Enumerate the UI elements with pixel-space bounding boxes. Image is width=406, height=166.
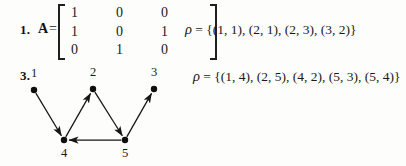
digraph-node-label-2: 2 — [86, 65, 100, 80]
digraph-edge-2-to-5 — [95, 92, 122, 136]
digraph-nodes — [31, 86, 157, 143]
digraph-node-label-5: 5 — [118, 146, 132, 161]
digraph-node-1 — [31, 87, 37, 93]
digraph-edges — [36, 92, 152, 140]
digraph-node-5 — [122, 137, 128, 143]
digraph-node-2 — [90, 86, 96, 92]
digraph-node-label-4: 4 — [57, 146, 71, 161]
digraph-drawing — [0, 0, 406, 166]
digraph-node-label-3: 3 — [147, 65, 161, 80]
answer-key-figure: 1. A = 1 0 0 1 0 1 0 1 0 ρ = {(1, 1), (2… — [0, 0, 406, 166]
digraph-node-4 — [61, 137, 67, 143]
digraph-edge-5-to-3 — [127, 93, 152, 137]
digraph-node-label-1: 1 — [27, 66, 41, 81]
digraph-edge-4-to-2 — [66, 93, 91, 137]
digraph-node-3 — [151, 86, 157, 92]
digraph-edge-1-to-4 — [36, 93, 62, 136]
